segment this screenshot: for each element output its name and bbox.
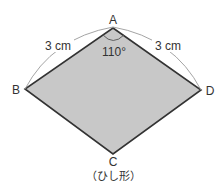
vertex-label-a: A — [109, 13, 117, 27]
side-label-ad: 3 cm — [155, 39, 181, 53]
side-label-ab: 3 cm — [45, 39, 71, 53]
vertex-label-c: C — [109, 155, 118, 169]
angle-label: 110° — [102, 45, 126, 59]
vertex-label-b: B — [12, 83, 20, 97]
shape-caption: （ひし形） — [86, 170, 141, 182]
vertex-label-d: D — [206, 84, 215, 98]
rhombus-diagram: A B C D 3 cm 3 cm 110° （ひし形） — [0, 0, 224, 192]
